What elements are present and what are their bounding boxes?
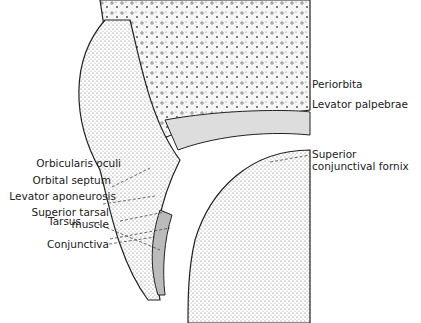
label-orbital-septum: Orbital septum xyxy=(32,174,111,186)
label-superior: Superior xyxy=(312,148,356,160)
label-levator-aponeurosis: Levator aponeurosis xyxy=(9,190,116,202)
label-conjunctiva: Conjunctiva xyxy=(47,238,109,250)
label-conjunctival-fornix: conjunctival fornix xyxy=(312,160,409,172)
label-tarsus: Tarsus xyxy=(48,215,81,227)
globe xyxy=(188,150,310,323)
label-orbicularis-oculi: Orbicularis oculi xyxy=(36,157,121,169)
label-levator-palpebrae: Levator palpebrae xyxy=(312,98,408,110)
levator-palpebrae xyxy=(165,110,310,150)
label-periorbita: Periorbita xyxy=(312,78,363,90)
